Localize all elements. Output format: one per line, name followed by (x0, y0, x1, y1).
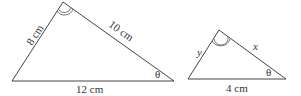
large-theta-label: θ (155, 68, 160, 80)
similar-triangles-diagram: 8 cm 10 cm 12 cm θ y x 4 cm θ (0, 0, 301, 96)
small-left-side-label: y (196, 46, 202, 58)
small-base-label: 4 cm (226, 82, 248, 94)
small-theta-label: θ (266, 66, 271, 78)
large-top-angle-arc-inner (59, 8, 71, 13)
small-triangle-outline (188, 30, 286, 79)
large-triangle: 8 cm 10 cm 12 cm θ (12, 2, 174, 95)
small-triangle: y x 4 cm θ (188, 30, 286, 94)
small-right-side-label: x (252, 40, 258, 52)
large-base-label: 12 cm (76, 83, 104, 95)
large-right-side-label: 10 cm (107, 18, 137, 44)
